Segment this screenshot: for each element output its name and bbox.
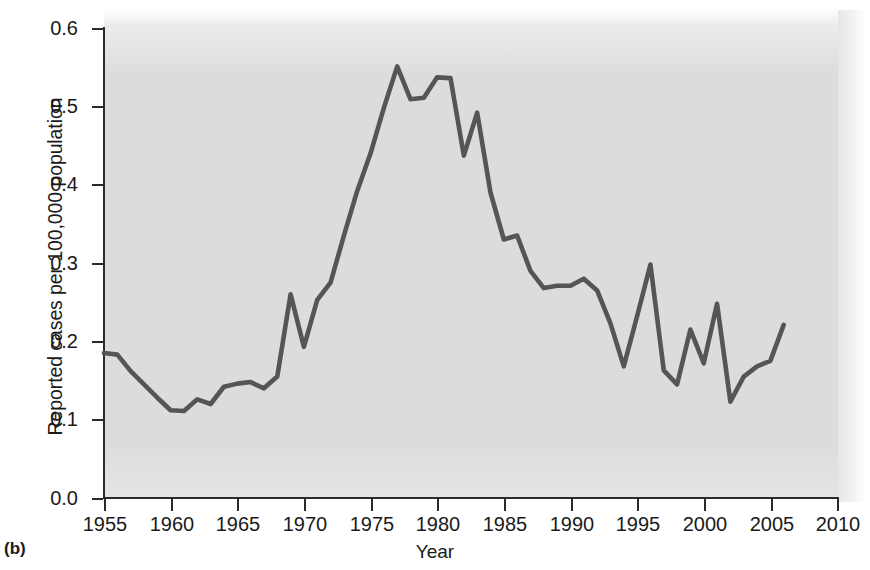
- y-tick-label: 0.1: [4, 408, 78, 431]
- y-tick: [92, 263, 103, 265]
- x-tick: [371, 499, 373, 511]
- y-tick: [92, 106, 103, 108]
- y-tick-label: 0.6: [4, 17, 78, 40]
- y-tick-label: 0.4: [4, 173, 78, 196]
- y-tick-label: 0.5: [4, 95, 78, 118]
- x-axis-line: [103, 497, 839, 499]
- x-tick-label: 1975: [337, 513, 407, 536]
- x-tick: [571, 499, 573, 511]
- x-tick: [437, 499, 439, 511]
- y-tick: [92, 341, 103, 343]
- x-tick-label: 2005: [737, 513, 807, 536]
- x-tick: [504, 499, 506, 511]
- y-tick-label: 0.3: [4, 252, 78, 275]
- x-tick-label: 1970: [270, 513, 340, 536]
- x-tick-label: 1980: [403, 513, 473, 536]
- y-tick-label: 0.0: [4, 487, 78, 510]
- x-tick-label: 1995: [603, 513, 673, 536]
- y-tick-label: 0.2: [4, 330, 78, 353]
- x-tick: [104, 499, 106, 511]
- figure-panel: _____ ___ ______ ___ ___ _____ ____ ____…: [0, 0, 870, 570]
- x-tick: [637, 499, 639, 511]
- y-tick: [92, 184, 103, 186]
- x-tick-label: 2010: [803, 513, 870, 536]
- x-axis-title: Year: [0, 541, 870, 563]
- panel-label: (b): [4, 539, 26, 559]
- scan-edge-right: [838, 10, 866, 502]
- x-tick: [171, 499, 173, 511]
- x-tick: [771, 499, 773, 511]
- x-tick-label: 1990: [537, 513, 607, 536]
- y-tick: [92, 28, 103, 30]
- x-tick-label: 1960: [137, 513, 207, 536]
- x-tick: [704, 499, 706, 511]
- plot-area-background: [104, 28, 838, 498]
- x-tick: [304, 499, 306, 511]
- y-tick: [92, 498, 103, 500]
- x-tick-label: 2000: [670, 513, 740, 536]
- x-tick: [237, 499, 239, 511]
- y-tick: [92, 419, 103, 421]
- x-tick: [837, 499, 839, 511]
- x-tick-label: 1965: [203, 513, 273, 536]
- x-tick-label: 1955: [70, 513, 140, 536]
- x-tick-label: 1985: [470, 513, 540, 536]
- y-axis-line: [103, 27, 105, 499]
